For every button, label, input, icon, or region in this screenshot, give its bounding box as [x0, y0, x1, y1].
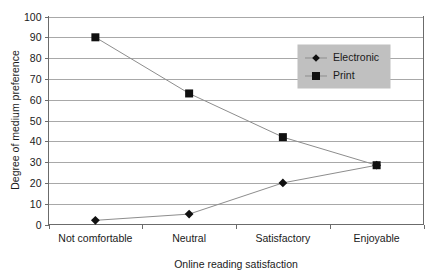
y-tick-label-100: 100	[24, 11, 42, 23]
data-point-print-3	[373, 161, 381, 169]
y-tick-label-60: 60	[30, 94, 42, 106]
y-tick-label-0: 0	[36, 219, 42, 231]
legend-label-print: Print	[333, 69, 355, 81]
y-axis-title: Degree of medium preference	[9, 50, 21, 190]
category-labels-group: Not comfortableNeutralSatisfactoryEnjoya…	[58, 232, 400, 244]
category-label-neutral: Neutral	[172, 232, 206, 244]
y-tick-label-10: 10	[30, 198, 42, 210]
series-line-electronic	[95, 165, 376, 220]
chart-canvas: 0102030405060708090100 Not comfortableNe…	[0, 0, 435, 276]
legend-label-electronic: Electronic	[333, 51, 379, 63]
data-point-print-1	[185, 89, 193, 97]
line-chart: 0102030405060708090100 Not comfortableNe…	[0, 0, 435, 276]
category-label-not-comfortable: Not comfortable	[58, 232, 132, 244]
y-tick-label-90: 90	[30, 31, 42, 43]
chart-legend: Electronic Print	[298, 45, 390, 88]
x-tick-marks-group	[50, 225, 425, 229]
data-point-electronic-1	[185, 210, 194, 219]
data-point-print-2	[279, 133, 287, 141]
y-tick-marks-group	[45, 18, 49, 226]
y-tick-labels-group: 0102030405060708090100	[24, 11, 42, 231]
y-tick-label-80: 80	[30, 52, 42, 64]
data-point-print-0	[91, 33, 99, 41]
y-tick-label-40: 40	[30, 135, 42, 147]
data-point-electronic-2	[278, 179, 287, 188]
x-axis-title: Online reading satisfaction	[174, 258, 298, 270]
y-tick-label-50: 50	[30, 115, 42, 127]
legend-marker-square-icon	[312, 72, 320, 80]
category-label-satisfactory: Satisfactory	[255, 232, 311, 244]
y-tick-label-20: 20	[30, 177, 42, 189]
category-label-enjoyable: Enjoyable	[354, 232, 400, 244]
data-point-electronic-0	[91, 216, 100, 225]
y-tick-label-30: 30	[30, 156, 42, 168]
y-tick-label-70: 70	[30, 73, 42, 85]
